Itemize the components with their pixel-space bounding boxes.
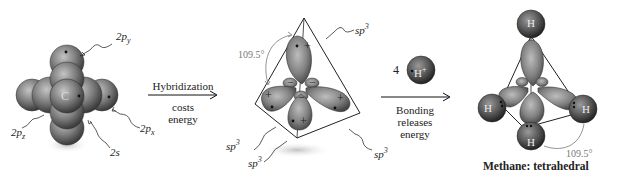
label-sp3-bottom: sp3: [248, 155, 262, 169]
label-sub: y: [127, 36, 131, 45]
sign-minus-left: −: [287, 76, 294, 88]
releases-label: releases: [382, 116, 448, 128]
label-sp3-top: sp3: [355, 22, 369, 36]
h-bottom: H: [527, 136, 535, 148]
energy-label-2: energy: [382, 128, 448, 140]
label-sup: 3: [384, 146, 388, 155]
label-base: 2p: [11, 126, 22, 138]
methane-caption: Methane: tetrahedral: [483, 160, 589, 172]
angle-label-hybrid: 109.5°: [238, 49, 265, 60]
hydrogen-symbol: H+: [414, 64, 426, 79]
h-right: H: [582, 103, 590, 115]
label-sub: x: [151, 128, 155, 137]
hybridization-diagram: 2py 2px 2pz 2s C Hybridization costs ene…: [0, 0, 621, 179]
costs-label: costs: [150, 101, 216, 113]
h-top: H: [527, 17, 535, 29]
label-sp3-right: sp3: [374, 146, 388, 160]
label-sup: 3: [258, 155, 262, 164]
h-left: H: [484, 102, 492, 114]
hybridization-label: Hybridization: [150, 80, 216, 92]
label-sup: 3: [365, 22, 369, 31]
sign-plus-right: +: [337, 92, 344, 104]
h-charge: +: [422, 65, 427, 74]
sign-plus-bottom: +: [300, 115, 307, 127]
label-base: sp: [355, 24, 365, 36]
energy-label: energy: [150, 113, 216, 125]
label-2py: 2py: [116, 30, 131, 45]
methane-molecule: [478, 10, 597, 150]
bonding-label: Bonding: [382, 104, 448, 116]
label-base: sp: [374, 148, 384, 160]
label-sp3-left: sp3: [226, 138, 240, 152]
label-base: sp: [248, 157, 258, 169]
arrow-hybridization: [148, 91, 217, 99]
label-2s: 2s: [110, 146, 120, 158]
angle-label-methane: 109.5°: [566, 148, 593, 159]
sign-minus-right: −: [309, 76, 316, 88]
sign-plus-top: +: [304, 40, 311, 52]
sign-plus-left: +: [265, 89, 272, 101]
label-sub: z: [22, 132, 25, 141]
label-sup: 3: [236, 138, 240, 147]
label-base: 2p: [116, 30, 127, 42]
carbon-symbol: C: [61, 90, 69, 102]
carbon-orbitals: [16, 44, 140, 153]
sign-minus-bottom: −: [298, 91, 305, 103]
hydrogen-count: 4: [393, 64, 399, 76]
label-base: sp: [226, 140, 236, 152]
label-2pz: 2pz: [11, 126, 25, 141]
h-symbol: H: [414, 67, 422, 79]
